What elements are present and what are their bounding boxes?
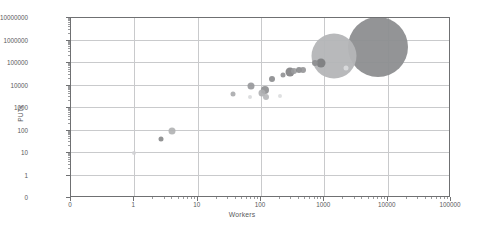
y-tick-minor xyxy=(68,20,70,21)
y-tick-mark xyxy=(66,107,70,108)
x-tick-minor xyxy=(425,197,426,199)
y-tick-minor xyxy=(68,161,70,162)
gridline-horizontal xyxy=(71,107,449,108)
gridline-horizontal xyxy=(71,152,449,153)
y-tick-label: 0 xyxy=(0,194,28,201)
y-axis-title: PUTs xyxy=(17,84,24,144)
x-tick-minor xyxy=(304,197,305,199)
y-tick-mark xyxy=(66,62,70,63)
x-tick-minor xyxy=(194,197,195,199)
y-tick-minor xyxy=(68,89,70,90)
x-tick-minor xyxy=(361,197,362,199)
y-tick-minor xyxy=(68,112,70,113)
y-tick-minor xyxy=(68,71,70,72)
x-tick-minor xyxy=(384,197,385,199)
y-tick-minor xyxy=(68,116,70,117)
x-tick-minor xyxy=(216,197,217,199)
y-tick-minor xyxy=(68,86,70,87)
data-point-bubble xyxy=(344,65,349,70)
x-tick-minor xyxy=(290,197,291,199)
y-tick-minor xyxy=(68,119,70,120)
y-tick-minor xyxy=(68,67,70,68)
y-tick-minor xyxy=(68,33,70,34)
x-tick-minor xyxy=(381,197,382,199)
data-point-bubble xyxy=(248,82,255,89)
x-tick-minor xyxy=(152,197,153,199)
y-tick-minor xyxy=(68,22,70,23)
x-tick-minor xyxy=(241,197,242,199)
gridline-horizontal xyxy=(71,85,449,86)
x-tick-label: 100000 xyxy=(420,201,480,209)
plot-area xyxy=(70,17,450,197)
x-tick-label: 1000 xyxy=(293,201,353,209)
data-point-bubble xyxy=(158,137,163,142)
y-tick-minor xyxy=(68,24,70,25)
y-tick-minor xyxy=(68,18,70,19)
data-point-bubble xyxy=(248,95,252,99)
y-tick-minor xyxy=(68,51,70,52)
y-tick-label: 1 xyxy=(0,171,28,178)
y-tick-minor xyxy=(68,93,70,94)
x-tick-minor xyxy=(187,197,188,199)
y-tick-minor xyxy=(68,138,70,139)
x-tick-label: 100 xyxy=(230,201,290,209)
y-tick-minor xyxy=(68,153,70,154)
gridline-horizontal xyxy=(71,130,449,131)
x-tick-label: 0 xyxy=(40,201,100,209)
y-tick-minor xyxy=(68,87,70,88)
bubble-chart: 0110100100010000100000100000010000000011… xyxy=(0,0,484,239)
x-tick-minor xyxy=(298,197,299,199)
y-tick-minor xyxy=(68,133,70,134)
y-tick-minor xyxy=(68,41,70,42)
y-tick-minor xyxy=(68,63,70,64)
data-point-bubble xyxy=(269,76,275,82)
x-tick-minor xyxy=(406,197,407,199)
x-tick-minor xyxy=(373,197,374,199)
data-point-bubble xyxy=(312,60,318,66)
x-tick-minor xyxy=(191,197,192,199)
y-tick-minor xyxy=(68,145,70,146)
y-tick-minor xyxy=(68,44,70,45)
y-tick-label: 100 xyxy=(0,126,28,133)
y-tick-minor xyxy=(68,42,70,43)
y-tick-minor xyxy=(68,69,70,70)
y-tick-mark xyxy=(66,40,70,41)
data-point-bubble xyxy=(348,17,408,77)
x-tick-minor xyxy=(227,197,228,199)
x-tick-minor xyxy=(171,197,172,199)
x-tick-minor xyxy=(254,197,255,199)
y-tick-mark xyxy=(66,130,70,131)
y-tick-minor xyxy=(68,65,70,66)
x-tick-minor xyxy=(309,197,310,199)
gridline-vertical xyxy=(134,18,135,196)
x-tick-label: 1 xyxy=(103,201,163,209)
y-tick-minor xyxy=(68,91,70,92)
y-tick-minor xyxy=(68,159,70,160)
x-tick-minor xyxy=(436,197,437,199)
x-tick-label: 10 xyxy=(167,201,227,209)
y-tick-label: 10000000 xyxy=(0,14,28,21)
x-tick-minor xyxy=(377,197,378,199)
y-tick-minor xyxy=(68,46,70,47)
data-point-bubble xyxy=(230,92,235,97)
y-tick-minor xyxy=(68,29,70,30)
y-tick-minor xyxy=(68,78,70,79)
y-tick-minor xyxy=(68,155,70,156)
x-tick-minor xyxy=(317,197,318,199)
x-tick-minor xyxy=(235,197,236,199)
y-tick-minor xyxy=(68,168,70,169)
data-point-bubble xyxy=(317,59,326,68)
x-tick-minor xyxy=(250,197,251,199)
y-tick-minor xyxy=(68,88,70,89)
y-tick-minor xyxy=(68,154,70,155)
y-tick-minor xyxy=(68,132,70,133)
x-tick-minor xyxy=(417,197,418,199)
data-point-bubble xyxy=(278,94,282,98)
y-tick-minor xyxy=(68,114,70,115)
y-tick-mark xyxy=(66,17,70,18)
data-point-bubble xyxy=(263,94,269,100)
y-tick-minor xyxy=(68,48,70,49)
y-tick-minor xyxy=(68,164,70,165)
y-tick-minor xyxy=(68,43,70,44)
x-tick-minor xyxy=(440,197,441,199)
